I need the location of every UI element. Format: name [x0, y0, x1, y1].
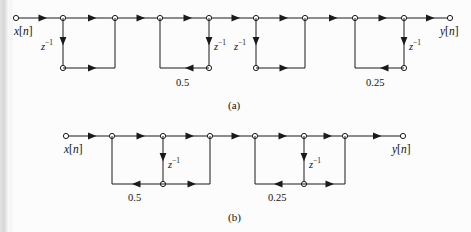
- diagram-a-graph: [13, 15, 452, 72]
- delay-arrow: [401, 37, 408, 46]
- flow-arrow-top: [232, 15, 241, 22]
- diagram-a-gain-label-2: 0.5: [176, 78, 189, 89]
- diagram-b-gain-label-2: 0.25: [268, 193, 286, 204]
- flow-arrow-top: [379, 15, 388, 22]
- flow-arrow-top: [88, 15, 97, 22]
- bottom-arrow: [380, 65, 389, 72]
- flow-arrow-top: [324, 133, 333, 140]
- input-node: [13, 15, 18, 20]
- flow-arrow-top: [88, 133, 97, 140]
- flow-arrow-top: [232, 133, 241, 140]
- diagram-b-delay-label-1: z−1: [168, 157, 180, 170]
- gain-arrow-left: [132, 181, 141, 188]
- figure-page: x[n] y[n] (a) z−1 z−1 z−1 z−1 0.5 0.25 x…: [0, 0, 471, 232]
- diagram-b-caption: (b): [228, 212, 241, 223]
- output-node: [400, 133, 405, 138]
- diagram-a-caption: (a): [228, 100, 240, 111]
- diagram-a-delay-label-1: z−1: [41, 39, 53, 52]
- feed-arrow-right: [188, 181, 197, 188]
- diagram-a-delay-label-2: z−1: [214, 39, 226, 52]
- diagram-b-output-label: y[n]: [392, 144, 411, 156]
- delay-arrow: [60, 37, 67, 46]
- delay-arrow: [206, 37, 213, 46]
- flow-arrow-top: [280, 15, 289, 22]
- delay-arrow: [301, 153, 308, 162]
- flow-arrow-top: [279, 133, 288, 140]
- bottom-arrow: [280, 65, 289, 72]
- delay-arrow: [253, 37, 260, 46]
- gain-arrow-left: [274, 181, 283, 188]
- flow-arrow-top: [137, 133, 146, 140]
- flow-arrow-top: [184, 15, 193, 22]
- bottom-arrow: [88, 65, 97, 72]
- flow-arrow-top: [329, 15, 338, 22]
- diagram-b-input-label: x[n]: [64, 144, 83, 156]
- diagram-b-delay-label-2: z−1: [309, 157, 321, 170]
- input-node: [63, 133, 68, 138]
- flow-arrow-top: [373, 133, 382, 140]
- diagram-a-output-label: y[n]: [440, 26, 459, 38]
- signal-flow-graph-canvas: [0, 0, 471, 232]
- feed-arrow-right: [326, 181, 335, 188]
- diagram-a-input-label: x[n]: [14, 26, 33, 38]
- output-node: [447, 15, 452, 20]
- diagram-b-gain-label-1: 0.5: [128, 193, 141, 204]
- flow-arrow-top: [186, 133, 195, 140]
- flow-arrow-top: [137, 15, 146, 22]
- bottom-arrow: [185, 65, 194, 72]
- diagram-a-delay-label-3: z−1: [234, 39, 246, 52]
- delay-arrow: [160, 153, 167, 162]
- diagram-b-graph: [63, 133, 405, 188]
- diagram-a-gain-label-4: 0.25: [366, 78, 384, 89]
- diagram-a-delay-label-4: z−1: [409, 39, 421, 52]
- flow-arrow-top: [39, 15, 48, 22]
- flow-arrow-top: [426, 15, 435, 22]
